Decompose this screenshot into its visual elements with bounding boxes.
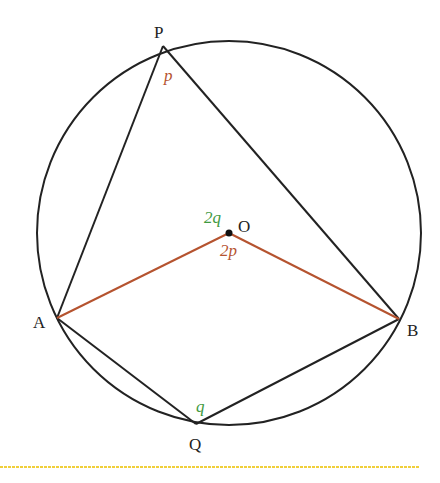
circle-theorem-diagram: P O A B Q p 2q 2p q	[0, 0, 440, 483]
label-P: P	[154, 23, 163, 42]
label-A: A	[33, 313, 46, 332]
radius-OA	[57, 233, 229, 318]
chord-AP	[57, 46, 163, 318]
label-O: O	[238, 217, 250, 236]
angle-label-2q: 2q	[204, 208, 222, 227]
angle-label-2p: 2p	[220, 241, 237, 260]
chord-PB	[163, 46, 399, 319]
angle-label-p: p	[163, 66, 173, 85]
label-B: B	[407, 321, 418, 340]
radius-OB	[229, 233, 399, 319]
centre-point	[226, 230, 233, 237]
chord-QB	[196, 319, 399, 424]
label-Q: Q	[189, 435, 201, 454]
angle-label-q: q	[196, 397, 205, 416]
chord-AQ	[57, 318, 196, 424]
